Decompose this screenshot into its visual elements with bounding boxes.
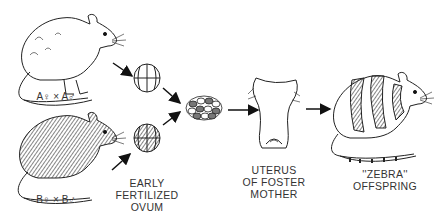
arrow-b-to-ovum xyxy=(112,154,130,170)
ovum-b-icon xyxy=(134,124,160,152)
arrow-ovum-a-to-embryo xyxy=(163,88,180,103)
fused-embryo-icon xyxy=(186,96,222,120)
uterus-icon xyxy=(248,78,300,148)
ovum-a-icon xyxy=(134,64,160,92)
parent-b-label: B♀ × B♂ xyxy=(36,194,76,205)
arrow-ovum-b-to-embryo xyxy=(163,112,180,125)
parent-a-label: A♀ × A♂ xyxy=(36,91,75,102)
uterus-label: UTERUS OF FOSTER MOTHER xyxy=(240,164,308,200)
offspring-label: ''ZEBRA'' OFFSPRING xyxy=(345,168,425,192)
zebra-mouse-icon xyxy=(332,72,435,163)
ovum-label: EARLY FERTILIZED OVUM xyxy=(110,177,184,213)
arrow-a-to-ovum xyxy=(113,63,132,76)
